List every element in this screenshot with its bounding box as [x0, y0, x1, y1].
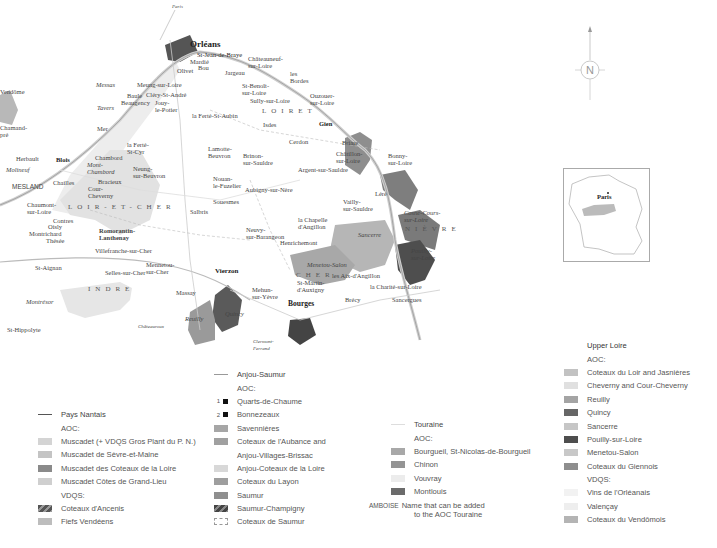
swatch: [391, 448, 405, 455]
swatch: [214, 465, 228, 472]
place-mont-chambord: Mont- Chambord: [87, 161, 115, 175]
inset-paris-label: Paris: [597, 193, 611, 200]
place-baule: Baule: [127, 92, 142, 99]
bourges-city: [288, 318, 316, 345]
compass-rose: N: [560, 20, 620, 104]
france-inset-map: Paris: [563, 168, 650, 262]
swatch-dashed: [214, 518, 228, 525]
place-aubigny: Aubigny-sur-Nère: [245, 186, 293, 193]
legend-heading: AOC:: [237, 384, 256, 393]
place-mer: Mer: [97, 125, 108, 132]
swatch: [564, 489, 578, 496]
legend-item: Muscadet de Sèvre-et-Maine: [61, 450, 159, 459]
place-oisly: Oisly: [48, 223, 62, 230]
legend-item: Montlouis: [414, 487, 447, 496]
legend-item: Coteaux du Giennois: [587, 462, 658, 471]
swatch: [38, 478, 52, 485]
place-les-bordes: les Bordes: [290, 70, 308, 84]
swatch: [564, 436, 578, 443]
place-brinon: Brinon- sur-Sauldre: [243, 152, 273, 166]
square-marker-icon: [223, 412, 228, 417]
legend-item: Vins de l'Orléanais: [587, 488, 650, 497]
place-briare: Briare: [342, 139, 358, 146]
place-orleans: Orléans: [190, 41, 221, 48]
place-bou: Bou: [198, 64, 209, 71]
swatch: [564, 423, 578, 430]
place-jouy: Jouy- le-Potier: [155, 99, 177, 113]
france-outline: [564, 169, 649, 261]
legend-item: Muscadet (+ VDQS Gros Plant du P. N.): [61, 437, 196, 446]
legend-heading: AOC:: [414, 434, 433, 443]
legend-item: to the AOC Touraine: [414, 510, 482, 519]
legend-item: Pouilly-sur-Loire: [587, 435, 642, 444]
dept-loiret: LOIRET: [262, 108, 317, 115]
place-cerdon: Cerdon: [289, 138, 308, 145]
place-herbault: Herbault: [16, 155, 39, 162]
place-souesmes: Souesmes: [213, 198, 239, 205]
dept-nievre: NIÈVRE: [405, 226, 461, 233]
place-messas: Messas: [96, 81, 115, 88]
legend-item: Coteaux de l'Aubance and: [237, 437, 326, 446]
place-vierzon: Vierzon: [215, 268, 238, 275]
swatch: [38, 465, 52, 472]
place-chatillon: Châtillon- sur-Loire: [336, 150, 362, 164]
legend-item: Cheverny and Cour-Cheverny: [587, 381, 688, 390]
place-la-chapelle: la Chapelle d'Angillon: [298, 216, 327, 230]
wine-region-map: LOIRET LOIR-ET-CHER CHER INDRE NIÈVRE Pa…: [0, 0, 717, 360]
place-mesland: MESLAND: [12, 183, 43, 190]
place-chateauroux: Châteauroux: [138, 323, 164, 330]
legend-item: Vouvray: [414, 474, 441, 483]
line-swatch: [38, 414, 52, 415]
place-montrichard: Montrichard: [29, 230, 62, 237]
compass-label: N: [586, 64, 594, 76]
place-montresor: Montrésor: [26, 298, 53, 305]
place-jargeau: Jargeau: [225, 69, 245, 76]
swatch: [564, 449, 578, 456]
legend-item: Reuilly: [587, 395, 610, 404]
legend-item: Saumur-Champigny: [237, 504, 305, 513]
place-bonny: Bonny- sur-Loire: [388, 152, 412, 166]
swatch: [214, 492, 228, 499]
place-cour-cheverny: Cour- Cheverny: [88, 185, 113, 199]
legend-item: Coteaux du Layon: [237, 477, 299, 486]
place-quincy: Quincy: [225, 310, 244, 317]
place-la-charite: la Charité-sur-Loire: [370, 283, 422, 290]
place-blois: Blois: [56, 156, 70, 163]
place-sully: Sully-sur-Loire: [250, 97, 290, 104]
swatch: [214, 438, 228, 445]
place-st-hippolyte: St-Hippolyte: [7, 326, 41, 333]
place-nouan: Nouan- le-Fuzelier: [213, 175, 241, 189]
place-salbris: Salbris: [190, 208, 208, 215]
swatch: [38, 438, 52, 445]
place-paris: Paris: [172, 3, 183, 10]
swatch: [564, 516, 578, 523]
swatch: [391, 475, 405, 482]
swatch: [564, 503, 578, 510]
dept-indre: INDRE: [88, 286, 134, 293]
legend-item: Valençay: [587, 502, 618, 511]
place-sancergues: Sancergues: [392, 296, 421, 303]
legend-title: Anjou-Saumur: [237, 370, 286, 379]
place-chateauneuf: Châteauneuf- sur-Loire: [248, 55, 283, 69]
place-neung: Neung- sur-Beuvron: [133, 165, 165, 179]
place-clermont: Clermont- Ferrand: [253, 338, 274, 352]
place-massay: Massay: [176, 289, 196, 296]
legend-item: Coteaux d'Ancenis: [61, 504, 124, 513]
place-tavers: Tavers: [97, 104, 114, 111]
legend-item: Coteaux du Loir and Jasnières: [587, 368, 690, 377]
legend-heading: AOC:: [61, 424, 80, 433]
legend-item: Quarts-de-Chaume: [237, 397, 302, 406]
place-thesee: Thésée: [46, 237, 64, 244]
place-argent: Argent-sur-Sauldre: [298, 166, 348, 173]
swatch-hatched: [38, 505, 52, 512]
swatch-hatched: [214, 505, 228, 512]
place-romorantin: Romorantin- Lanthenay: [99, 227, 135, 241]
legend-touraine: Touraine AOC: Bourgueil, St-Nicolas-de-B…: [391, 418, 531, 521]
place-chailles: Chailles: [53, 179, 74, 186]
place-reuilly: Reuilly: [185, 315, 203, 322]
legend-item: Coteaux du Vendômois: [587, 515, 666, 524]
place-meung: Meung-sur-Loire: [137, 81, 182, 88]
legend-pays-nantais: Pays Nantais AOC: Muscadet (+ VDQS Gros …: [38, 408, 196, 529]
place-bracieux: Bracieux: [98, 178, 121, 185]
place-st-martin: St-Martin- d'Auxigny: [297, 279, 324, 293]
